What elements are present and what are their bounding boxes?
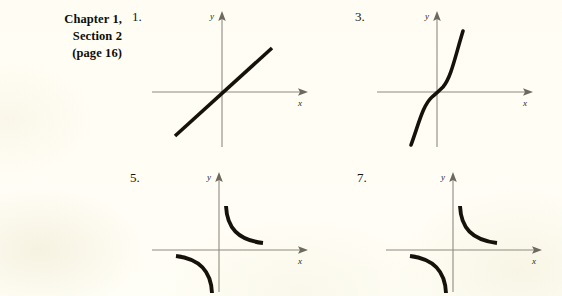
x-axis-label: x — [531, 256, 536, 266]
y-axis-label: y — [440, 172, 445, 182]
x-axis-label: x — [297, 256, 302, 266]
graph-5: y x — [150, 166, 320, 296]
curve-hyperbola-branch-lower — [410, 256, 446, 293]
x-axis-label: x — [297, 98, 302, 108]
graph-7: y x — [384, 166, 554, 296]
x-axis-label: x — [522, 98, 527, 108]
chapter-section-heading: Chapter 1, Section 2 (page 16) — [10, 11, 122, 62]
graph-3: y x — [375, 5, 545, 155]
y-axis-label: y — [206, 172, 211, 182]
scanned-page: Chapter 1, Section 2 (page 16) 1. y x 3. — [0, 0, 562, 296]
curve-hyperbola-branch-lower — [176, 256, 212, 293]
heading-line-page: (page 16) — [10, 45, 122, 62]
curve-hyperbola-branch-upper — [460, 206, 497, 243]
heading-line-section: Section 2 — [10, 28, 122, 45]
graph-1: y x — [150, 5, 320, 155]
y-axis-label: y — [209, 11, 214, 21]
problem-number-7: 7. — [357, 170, 367, 186]
problem-number-1: 1. — [132, 9, 142, 25]
problem-number-3: 3. — [355, 9, 365, 25]
heading-line-chapter: Chapter 1, — [10, 11, 122, 28]
y-axis-label: y — [424, 11, 429, 21]
problem-number-5: 5. — [130, 170, 140, 186]
curve-hyperbola-branch-upper — [226, 206, 263, 243]
